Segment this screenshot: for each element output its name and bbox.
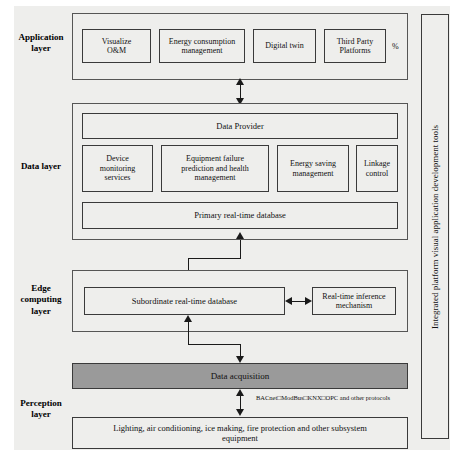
app-box-third-party-platforms[interactable]: Third Party Platforms <box>324 29 386 63</box>
connector-perception-arrow-up <box>236 389 244 396</box>
connector-application-data-arrow-up <box>236 78 244 85</box>
connector-edge-arrow-right <box>305 297 312 305</box>
data-service-device-monitoring[interactable]: Device monitoring services <box>82 145 153 192</box>
connector-edge-arrow-left <box>285 297 292 305</box>
connector-perception-arrow-down <box>236 409 244 416</box>
data-provider-box[interactable]: Data Provider <box>82 113 398 139</box>
connector-edge-perception-segment-left <box>188 322 189 344</box>
integrated-platform-tools-band: Integrated platform visual application d… <box>421 14 449 439</box>
architecture-diagram: Application layer Data layer Edge comput… <box>0 0 463 464</box>
primary-realtime-database-box[interactable]: Primary real-time database <box>82 202 398 229</box>
subordinate-realtime-database-box[interactable]: Subordinate real-time database <box>84 287 285 315</box>
application-trailing-mark: % <box>392 42 399 51</box>
connector-data-edge-segment-right <box>240 240 241 259</box>
layer-label-data: Data layer <box>6 161 76 172</box>
connector-data-edge-arrow-up <box>236 232 244 239</box>
connector-edge-perception-segment-horizontal <box>188 344 241 345</box>
data-service-energy-saving-management[interactable]: Energy saving management <box>277 145 349 192</box>
protocol-note: BACnet□ModBus□KNX□OPC and other protocol… <box>248 394 398 402</box>
data-acquisition-box[interactable]: Data acquisition <box>72 363 408 389</box>
layer-label-application: Application layer <box>6 32 76 55</box>
data-service-equipment-failure-prediction[interactable]: Equipment failure prediction and health … <box>161 145 269 192</box>
app-box-energy-consumption-management[interactable]: Energy consumption management <box>159 29 245 63</box>
layer-label-edge: Edge computing layer <box>6 283 76 317</box>
subsystem-equipment-box[interactable]: Lighting, air conditioning, ice making, … <box>72 417 408 449</box>
data-service-linkage-control[interactable]: Linkage control <box>356 145 398 192</box>
connector-edge-perception-arrow-down <box>236 356 244 363</box>
realtime-inference-mechanism-box[interactable]: Real-time inference mechanism <box>312 287 396 315</box>
layer-label-perception: Perception layer <box>6 398 76 421</box>
app-box-digital-twin[interactable]: Digital twin <box>253 29 316 63</box>
connector-edge-perception-arrow-up <box>184 315 192 322</box>
app-box-visualize-om[interactable]: Visualize O&M <box>82 29 151 63</box>
integrated-platform-tools-label: Integrated platform visual application d… <box>430 124 440 328</box>
connector-data-edge-segment-horizontal <box>188 258 241 259</box>
